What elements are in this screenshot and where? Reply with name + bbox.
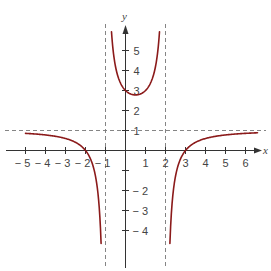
ticks [26, 51, 246, 231]
y-axis-label: y [121, 10, 127, 22]
y-tick-label: 2 [134, 105, 140, 117]
y-tick-label: − 3 [133, 205, 149, 217]
x-tick-label: 1 [142, 157, 148, 169]
y-tick-label: 1 [134, 125, 140, 137]
x-tick-label: 3 [182, 157, 188, 169]
x-tick-label: − 3 [55, 157, 71, 169]
y-tick-label: − 2 [133, 185, 149, 197]
y-tick-label: − 4 [133, 225, 149, 237]
x-tick-label: 6 [242, 157, 248, 169]
x-tick-label: 4 [202, 157, 208, 169]
x-tick-label: − 1 [95, 157, 111, 169]
function-graph: − 5− 4− 3− 2− 112345654321− 2− 3− 4 x y [0, 0, 271, 271]
curve-left-branch [26, 133, 102, 243]
y-tick-label: 4 [134, 65, 140, 77]
x-tick-label: 2 [162, 157, 168, 169]
y-tick-label: 5 [134, 45, 140, 57]
x-tick-label: 5 [222, 157, 228, 169]
x-tick-label: − 4 [35, 157, 51, 169]
x-tick-label: − 5 [15, 157, 31, 169]
x-axis-arrow-icon [254, 148, 262, 154]
curve-right-branch [170, 133, 258, 244]
y-axis-arrow-icon [123, 25, 129, 34]
x-tick-label: − 2 [75, 157, 91, 169]
x-axis-label: x [262, 144, 268, 156]
tick-labels: − 5− 4− 3− 2− 112345654321− 2− 3− 4 [15, 45, 249, 237]
